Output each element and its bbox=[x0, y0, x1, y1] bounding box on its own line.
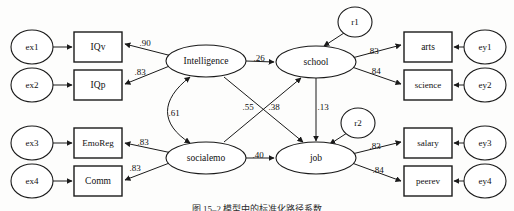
coef-intelligence-to-iqp: .83 bbox=[134, 67, 146, 77]
node-ey4: ey4 bbox=[464, 164, 506, 198]
endogenous-error-nodes: ey1 ey2 ey3 ey4 bbox=[464, 30, 506, 198]
ey1-label: ey1 bbox=[479, 42, 492, 52]
sem-canvas: ex1 ex2 ex3 ex4 IQv IQp bbox=[0, 0, 514, 211]
job-label: job bbox=[309, 153, 322, 163]
error-to-indicator-paths-right bbox=[454, 47, 464, 181]
peerev-label: peerev bbox=[416, 176, 440, 186]
intelligence-label: Intelligence bbox=[184, 56, 229, 66]
node-comm: Comm bbox=[74, 166, 122, 196]
path-r1-to-school bbox=[324, 33, 344, 46]
left-indicator-nodes: IQv IQp EmoReg Comm bbox=[74, 32, 122, 196]
node-ex4: ex4 bbox=[11, 164, 53, 198]
coef-school-to-job: .13 bbox=[317, 102, 329, 112]
path-intelligence-to-iqp bbox=[125, 65, 172, 84]
coef-intelligence-to-iqv: .90 bbox=[139, 38, 151, 48]
socialemo-loadings bbox=[125, 143, 172, 180]
node-emoreg: EmoReg bbox=[74, 128, 122, 158]
node-socialemo: socialemo bbox=[166, 142, 246, 174]
ey4-label: ey4 bbox=[479, 176, 492, 186]
node-r1: r1 bbox=[338, 7, 372, 37]
right-indicator-nodes: arts science salary peerev bbox=[404, 32, 452, 196]
node-intelligence: Intelligence bbox=[166, 45, 246, 77]
socialemo-label: socialemo bbox=[187, 153, 226, 163]
ex3-label: ex3 bbox=[26, 138, 39, 148]
ex1-label: ex1 bbox=[26, 42, 39, 52]
arts-label: arts bbox=[421, 42, 435, 52]
ey3-label: ey3 bbox=[479, 138, 492, 148]
coef-job-to-peerev: .84 bbox=[372, 165, 384, 175]
coef-socialemo-to-school: .38 bbox=[268, 102, 280, 112]
coef-job-to-salary: .83 bbox=[369, 141, 381, 151]
ex4-label: ex4 bbox=[26, 176, 39, 186]
node-arts: arts bbox=[404, 32, 452, 62]
node-salary: salary bbox=[404, 128, 452, 158]
node-ex1: ex1 bbox=[11, 30, 53, 64]
node-ex3: ex3 bbox=[11, 126, 53, 160]
iqv-label: IQv bbox=[91, 42, 106, 52]
coef-intelligence-to-job: .55 bbox=[242, 102, 254, 112]
salary-label: salary bbox=[417, 138, 439, 148]
r2-label: r2 bbox=[354, 118, 362, 128]
node-science: science bbox=[404, 70, 452, 100]
ey2-label: ey2 bbox=[479, 80, 492, 90]
error-to-indicator-paths bbox=[53, 47, 72, 181]
ex2-label: ex2 bbox=[26, 80, 39, 90]
figure-caption: 图 15–2 模型中的标准化路径系数 bbox=[0, 202, 514, 211]
r1-label: r1 bbox=[351, 17, 359, 27]
node-r2: r2 bbox=[341, 108, 375, 138]
node-ey3: ey3 bbox=[464, 126, 506, 160]
comm-label: Comm bbox=[85, 176, 111, 186]
science-label: science bbox=[415, 80, 441, 90]
emoreg-label: EmoReg bbox=[82, 138, 114, 148]
node-ey2: ey2 bbox=[464, 68, 506, 102]
node-ey1: ey1 bbox=[464, 30, 506, 64]
school-label: school bbox=[304, 57, 329, 67]
coef-intelligence-socialemo-cov: .61 bbox=[168, 108, 179, 118]
node-job: job bbox=[276, 142, 356, 174]
coef-socialemo-to-job: .40 bbox=[252, 150, 264, 160]
coef-socialemo-to-emoreg: .83 bbox=[137, 137, 149, 147]
iqp-label: IQp bbox=[91, 80, 106, 90]
path-socialemo-to-school bbox=[224, 78, 301, 142]
coef-intelligence-to-school: .26 bbox=[253, 53, 265, 63]
coef-school-to-science: .84 bbox=[369, 66, 381, 76]
node-ex2: ex2 bbox=[11, 68, 53, 102]
coef-school-to-arts: .83 bbox=[367, 46, 379, 56]
node-peerev: peerev bbox=[404, 166, 452, 196]
node-iqv: IQv bbox=[74, 32, 122, 62]
node-school: school bbox=[276, 46, 356, 78]
exogenous-error-nodes: ex1 ex2 ex3 ex4 bbox=[11, 30, 53, 198]
intelligence-loadings bbox=[125, 44, 172, 84]
node-iqp: IQp bbox=[74, 70, 122, 100]
path-r2-to-job bbox=[330, 133, 347, 144]
coef-socialemo-to-comm: .83 bbox=[129, 163, 141, 173]
sem-diagram: ex1 ex2 ex3 ex4 IQv IQp bbox=[0, 0, 514, 211]
